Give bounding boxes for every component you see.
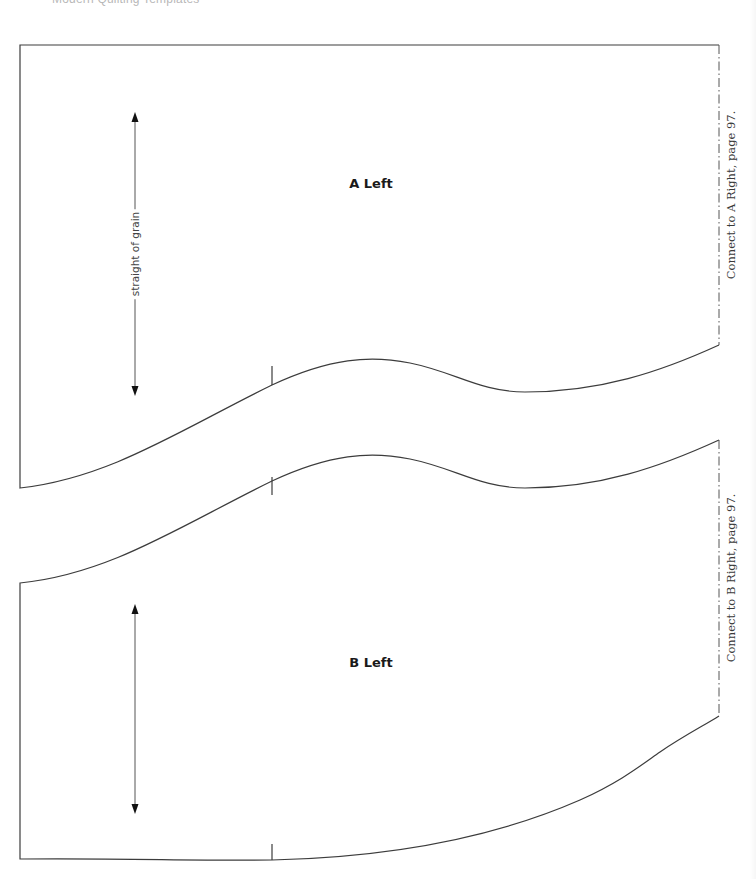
- connect-note-a: Connect to A Right, page 97.: [724, 108, 738, 283]
- template-piece-a-left: [20, 45, 719, 488]
- page-edge-shadow: [750, 0, 756, 879]
- b-left-outline: [20, 440, 719, 860]
- b-left-grainline-arrow: [132, 604, 139, 814]
- arrow-up-icon: [132, 112, 139, 122]
- template-piece-b-left: [20, 440, 719, 860]
- pattern-sheet: [0, 0, 756, 879]
- arrow-down-icon: [132, 804, 139, 814]
- grainline-label: straight of grain: [129, 209, 141, 299]
- piece-label-b-left: B Left: [349, 655, 392, 670]
- a-left-outline: [20, 45, 719, 488]
- piece-label-a-left: A Left: [349, 176, 393, 191]
- arrow-down-icon: [132, 386, 139, 396]
- connect-note-b: Connect to B Right, page 97.: [724, 491, 738, 666]
- arrow-up-icon: [132, 604, 139, 614]
